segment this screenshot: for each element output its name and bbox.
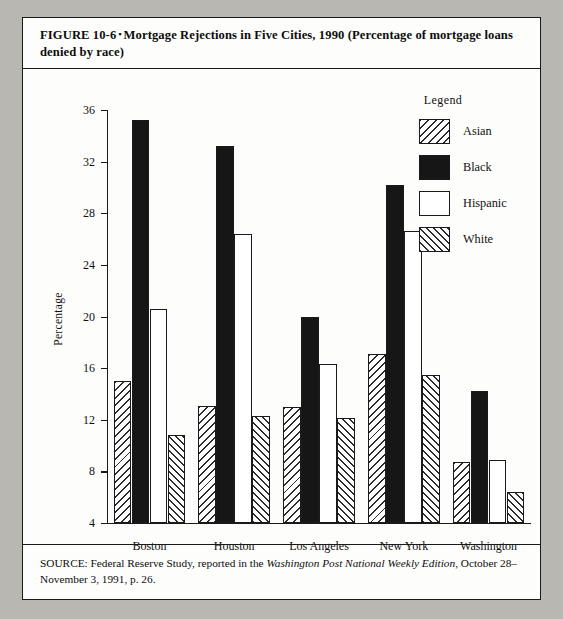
- legend-item-asian: Asian: [375, 119, 525, 144]
- y-axis-tick-label: 24: [65, 257, 95, 272]
- bar-washington-hispanic: [489, 460, 507, 523]
- legend-swatch-white-icon: [419, 227, 450, 252]
- y-axis-title: Percentage: [52, 259, 64, 379]
- legend-swatch-hispanic-icon: [419, 191, 450, 216]
- legend-label: White: [463, 232, 493, 247]
- x-axis-line: [107, 523, 531, 524]
- figure-container: FIGURE 10-6▪Mortgage Rejections in Five …: [22, 17, 541, 600]
- y-axis-tick-label: 12: [65, 412, 95, 427]
- y-axis-tick-label: 32: [65, 154, 95, 169]
- y-axis-tick-mark: [101, 213, 107, 214]
- legend-label: Asian: [463, 124, 492, 139]
- legend-item-hispanic: Hispanic: [375, 191, 525, 216]
- y-axis-tick-mark: [101, 265, 107, 266]
- y-axis-tick-mark: [101, 368, 107, 369]
- bar-new-york-hispanic: [404, 231, 422, 523]
- legend-label: Black: [463, 160, 492, 175]
- y-axis-tick-label: 4: [65, 516, 95, 531]
- figure-source-note: SOURCE: Federal Reserve Study, reported …: [23, 544, 540, 599]
- bar-new-york-white: [422, 375, 440, 523]
- legend-swatch-asian-icon: [419, 119, 450, 144]
- bar-houston-hispanic: [234, 234, 252, 523]
- legend-item-white: White: [375, 227, 525, 252]
- y-axis-tick-label: 16: [65, 361, 95, 376]
- y-axis-tick-mark: [101, 471, 107, 472]
- y-axis-tick-mark: [101, 162, 107, 163]
- bar-boston-hispanic: [150, 309, 168, 523]
- y-axis-tick-label: 36: [65, 103, 95, 118]
- bar-new-york-asian: [368, 354, 386, 523]
- bar-houston-asian: [198, 406, 216, 523]
- bar-boston-asian: [114, 381, 132, 523]
- legend-label: Hispanic: [463, 196, 507, 211]
- y-axis-tick-label: 28: [65, 206, 95, 221]
- figure-caption: FIGURE 10-6▪Mortgage Rejections in Five …: [23, 18, 540, 69]
- bar-boston-white: [168, 435, 186, 523]
- legend-item-black: Black: [375, 155, 525, 180]
- y-axis-tick-label: 20: [65, 309, 95, 324]
- legend-items: AsianBlackHispanicWhite: [375, 119, 525, 252]
- figure-number: FIGURE 10-6: [40, 28, 116, 42]
- y-axis-tick-label: 8: [65, 464, 95, 479]
- bar-boston-black: [132, 120, 150, 523]
- chart-legend: Legend AsianBlackHispanicWhite: [375, 93, 525, 252]
- y-axis-line: [107, 110, 108, 523]
- bar-washington-black: [471, 391, 489, 523]
- bar-washington-asian: [453, 462, 471, 523]
- bar-los-angeles-white: [337, 418, 355, 523]
- bar-houston-white: [252, 416, 270, 523]
- bar-los-angeles-asian: [283, 407, 301, 523]
- y-axis-tick-mark: [101, 523, 107, 524]
- source-publication: Washington Post National Weekly Edition: [266, 557, 455, 569]
- y-axis-tick-mark: [101, 317, 107, 318]
- legend-swatch-black-icon: [419, 155, 450, 180]
- legend-title: Legend: [383, 93, 503, 108]
- y-axis-tick-mark: [101, 420, 107, 421]
- bar-los-angeles-hispanic: [319, 364, 337, 523]
- caption-separator-icon: ▪: [116, 29, 123, 39]
- bar-houston-black: [216, 146, 234, 523]
- chart-plot-area: Percentage 4812162024283236 BostonHousto…: [23, 74, 542, 560]
- y-axis-tick-mark: [101, 110, 107, 111]
- bar-washington-white: [507, 492, 525, 523]
- source-prefix: SOURCE: Federal Reserve Study, reported …: [40, 557, 266, 569]
- bar-los-angeles-black: [301, 317, 319, 524]
